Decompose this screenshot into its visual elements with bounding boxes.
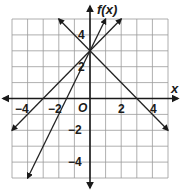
y-tick-neg2: −2: [68, 124, 82, 136]
y-tick-pos2: 2: [78, 61, 85, 73]
x-axis-label: x: [171, 82, 178, 95]
coordinate-plane: [0, 0, 181, 191]
y-tick-neg4: −4: [68, 156, 82, 168]
x-tick-pos4: 4: [150, 103, 157, 115]
x-tick-neg2: −2: [48, 103, 62, 115]
x-tick-neg4: −4: [15, 103, 29, 115]
x-tick-pos2: 2: [118, 103, 125, 115]
origin-label: O: [78, 102, 87, 114]
y-axis-label: f(x): [97, 3, 117, 16]
y-tick-pos4: 4: [78, 29, 85, 41]
axes: [3, 6, 178, 188]
